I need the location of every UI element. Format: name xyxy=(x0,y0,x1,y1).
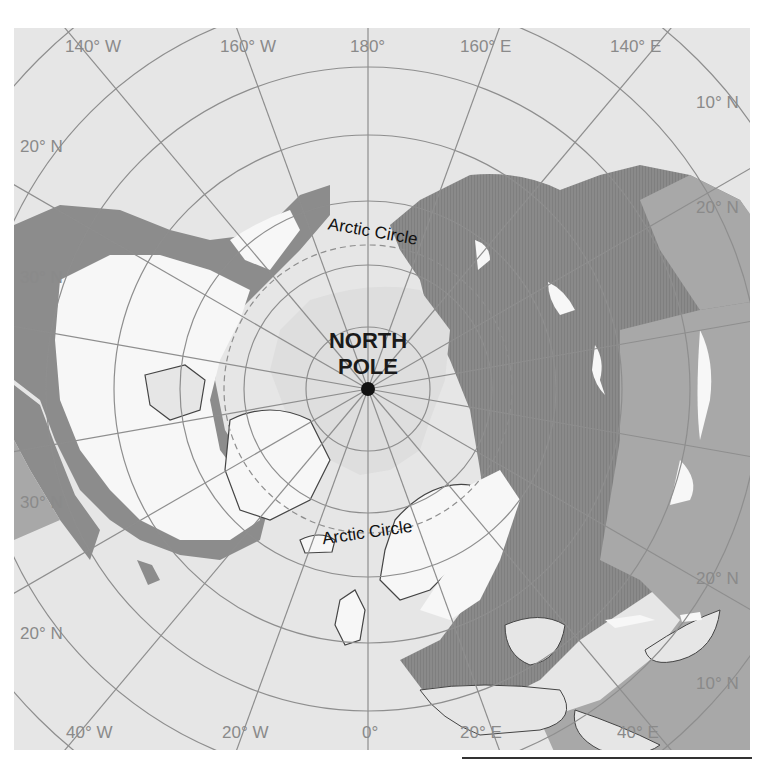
latitude-label-right-20n-bottom: 20° N xyxy=(696,569,739,588)
latitude-label-right-10n-bottom: 10° N xyxy=(696,674,739,693)
polar-map: NORTH POLE Arctic Circle Arctic Circle 1… xyxy=(14,28,750,750)
longitude-label-140e: 140° E xyxy=(610,37,661,56)
longitude-label-20w: 20° W xyxy=(222,723,268,742)
latitude-label-right-20n-top: 20° N xyxy=(696,198,739,217)
longitude-label-20e: 20° E xyxy=(460,723,502,742)
bottom-rule-divider xyxy=(462,757,752,759)
north-pole-dot xyxy=(361,382,375,396)
longitude-label-180: 180° xyxy=(350,37,385,56)
latitude-label-left-20n-top: 20° N xyxy=(20,137,63,156)
polar-map-svg: NORTH POLE Arctic Circle Arctic Circle 1… xyxy=(14,28,750,750)
longitude-label-140w: 140° W xyxy=(65,37,121,56)
longitude-label-40e: 40° E xyxy=(617,723,659,742)
latitude-label-left-20n-bottom: 20° N xyxy=(20,624,63,643)
longitude-label-40w: 40° W xyxy=(66,723,112,742)
north-pole-label-line2: POLE xyxy=(338,354,398,379)
north-pole-label-line1: NORTH xyxy=(329,328,407,353)
latitude-label-right-10n-top: 10° N xyxy=(696,93,739,112)
longitude-label-0: 0° xyxy=(362,723,378,742)
latitude-label-left-30n-bottom: 30° N xyxy=(20,493,63,512)
longitude-label-160e: 160° E xyxy=(460,37,511,56)
longitude-label-160w: 160° W xyxy=(220,37,276,56)
latitude-label-left-30n-top: 30° N xyxy=(20,268,63,287)
